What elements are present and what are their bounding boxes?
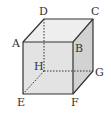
front-face [23,42,73,94]
vertex-label-A: A [11,37,21,50]
vertex-label-F: F [71,96,79,109]
vertex-label-D: D [39,5,48,18]
vertex-label-C: C [91,5,99,18]
vertex-label-G: G [95,66,104,79]
vertex-label-E: E [17,96,25,109]
vertex-label-B: B [75,42,83,55]
vertex-label-H: H [34,60,44,73]
cube-diagram: D C A B H G E F [0,0,111,113]
